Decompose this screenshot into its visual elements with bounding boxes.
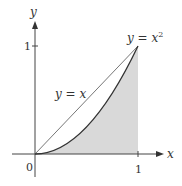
- origin-label: 0: [26, 161, 33, 174]
- y-axis-arrow-icon: [32, 21, 38, 29]
- parabola-label-exponent: 2: [158, 30, 163, 39]
- x-axis-label: x: [167, 147, 174, 161]
- x-axis-arrow-icon: [156, 151, 164, 157]
- parabola-label-base: y = x: [126, 31, 158, 45]
- area-diagram: y x 0 1 1 y = x y = x2: [0, 0, 182, 186]
- line-label: y = x: [54, 87, 86, 101]
- parabola-label: y = x2: [126, 30, 163, 45]
- y-axis-label: y: [29, 5, 37, 19]
- x-tick-label: 1: [135, 163, 142, 176]
- y-tick-label: 1: [24, 40, 31, 53]
